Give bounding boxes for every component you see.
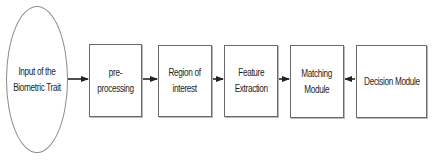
node-label: Matching Module — [302, 66, 333, 98]
node-label: Decision Module — [364, 74, 420, 90]
node-region-of-interest: Region of interest — [158, 45, 212, 117]
node-label: Feature Extraction — [234, 65, 267, 97]
node-decision-module: Decision Module — [356, 45, 427, 118]
node-preprocessing: pre-processing — [89, 44, 142, 117]
biometric-system-flowchart: Input of the Biometric Trait pre-process… — [0, 0, 436, 161]
node-matching-module: Matching Module — [290, 45, 344, 118]
node-input-biometric-trait: Input of the Biometric Trait — [6, 6, 68, 153]
node-label: Input of the Biometric Trait — [13, 64, 60, 96]
node-label: Region of interest — [169, 65, 201, 97]
node-feature-extraction: Feature Extraction — [224, 45, 278, 117]
node-label: pre-processing — [95, 65, 137, 97]
